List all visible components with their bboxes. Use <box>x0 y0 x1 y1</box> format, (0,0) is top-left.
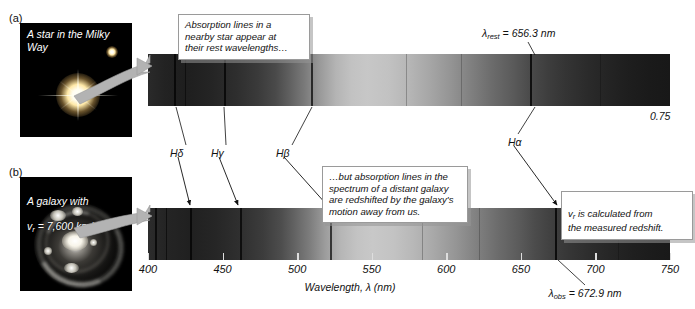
absorption-line-minor <box>479 208 480 260</box>
axis-title-pre: Wavelength, <box>305 281 366 293</box>
star-photo: A star in the Milky Way <box>20 23 132 137</box>
absorption-line-h-delta <box>174 54 176 106</box>
absorption-line-minor <box>600 54 601 106</box>
spectra-figure: (a) (b) A star in the Milky Way A galaxy… <box>0 0 695 309</box>
axis-tick-label: 700 <box>586 263 604 275</box>
leader-h-delta-top <box>176 107 186 145</box>
axis-tick-label: 600 <box>437 263 455 275</box>
callout-vr-text: is calculated from the measured redshift… <box>568 208 663 234</box>
star-spectrum-band <box>148 54 670 106</box>
axis-tick-label: 550 <box>363 263 381 275</box>
callout-galaxy-spectrum: …but absorption lines in the spectrum of… <box>322 166 468 223</box>
star-photo-caption: A star in the Milky Way <box>27 28 132 53</box>
axis-tick-label: 500 <box>288 263 306 275</box>
absorption-line-h-gamma-shifted <box>240 208 242 260</box>
galaxy-caption-vr-value: = 7,600 km/s <box>35 220 98 232</box>
axis-tick <box>521 253 522 260</box>
arrow-h-gamma-bottom <box>219 157 238 205</box>
axis-tick <box>297 253 298 260</box>
arrow-h-delta-bottom <box>178 157 190 205</box>
leader-h-beta-top <box>292 107 312 145</box>
absorption-line-h-delta <box>155 208 157 260</box>
absorption-line-h-alpha-shifted <box>555 208 557 260</box>
lambda-obs-annotation: λobs = 672.9 nm <box>548 287 621 301</box>
axis-tick-label: 650 <box>512 263 530 275</box>
galaxy-star-forming-knot <box>90 239 97 246</box>
absorption-line-minor <box>406 54 407 106</box>
axis-tick <box>595 253 596 260</box>
galaxy-photo-caption: A galaxy with vr = 7,600 km/s <box>27 182 98 236</box>
callout-vr-calculation: vr is calculated from the measured redsh… <box>561 191 693 240</box>
ratio-label: 0.75 <box>650 110 670 122</box>
absorption-line-h-gamma <box>224 54 226 106</box>
axis-tick-label: 450 <box>213 263 231 275</box>
lambda-rest-value: = 656.3 nm <box>500 27 556 39</box>
lambda-obs-subscript: obs <box>554 292 566 301</box>
absorption-line-h-alpha <box>530 54 532 106</box>
leader-h-alpha-top <box>518 107 535 134</box>
callout-star-spectrum: Absorption lines in a nearby star appear… <box>178 14 310 60</box>
leader-h-gamma-top <box>224 107 226 145</box>
absorption-line-minor <box>461 54 462 106</box>
arrow-h-alpha-bottom <box>514 146 557 205</box>
absorption-line-h-delta-b <box>166 208 167 260</box>
leader-lambda-obs <box>558 260 585 285</box>
galaxy-star-forming-knot <box>64 263 79 273</box>
axis-tick-label: 750 <box>661 263 679 275</box>
absorption-line-h-beta <box>311 54 313 106</box>
axis-tick <box>372 253 373 260</box>
galaxy-caption-line1: A galaxy with <box>27 195 88 207</box>
h-beta-label: Hβ <box>276 147 290 159</box>
lambda-rest-subscript: rest <box>487 32 500 41</box>
arrow-h-beta-bottom <box>284 157 327 205</box>
axis-tick <box>148 253 149 260</box>
axis-tick <box>670 253 671 260</box>
star-spectrum-gradient <box>148 54 670 106</box>
h-gamma-label: Hγ <box>211 147 224 159</box>
wavelength-axis: 400450500550600650700750 <box>148 260 670 261</box>
absorption-line-h-delta-b <box>185 54 186 106</box>
axis-tick <box>223 253 224 260</box>
h-alpha-label: Hα <box>508 136 522 148</box>
galaxy-photo: A galaxy with vr = 7,600 km/s <box>20 177 132 291</box>
star-diffraction-spike <box>77 69 79 121</box>
galaxy-star-forming-knot <box>44 247 52 255</box>
axis-title-post: (nm) <box>371 281 396 293</box>
lambda-obs-value: = 672.9 nm <box>566 287 622 299</box>
h-delta-label: Hδ <box>170 147 183 159</box>
axis-title: Wavelength, λ (nm) <box>305 281 396 293</box>
axis-tick <box>446 253 447 260</box>
absorption-line-h-delta-shifted <box>190 208 192 260</box>
axis-tick-label: 400 <box>139 263 157 275</box>
lambda-rest-annotation: λrest = 656.3 nm <box>482 27 555 41</box>
